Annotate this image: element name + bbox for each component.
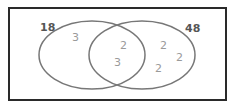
intersection-value-1: 2 xyxy=(120,40,127,51)
only-b-value-2: 2 xyxy=(176,52,183,63)
only-b-value-3: 2 xyxy=(155,63,162,74)
venn-ellipses xyxy=(0,0,243,107)
set-b-label: 48 xyxy=(185,23,200,34)
intersection-value-2: 3 xyxy=(114,57,121,68)
only-b-value-1: 2 xyxy=(160,40,167,51)
only-a-value: 3 xyxy=(72,32,79,43)
set-a-label: 18 xyxy=(40,22,55,33)
